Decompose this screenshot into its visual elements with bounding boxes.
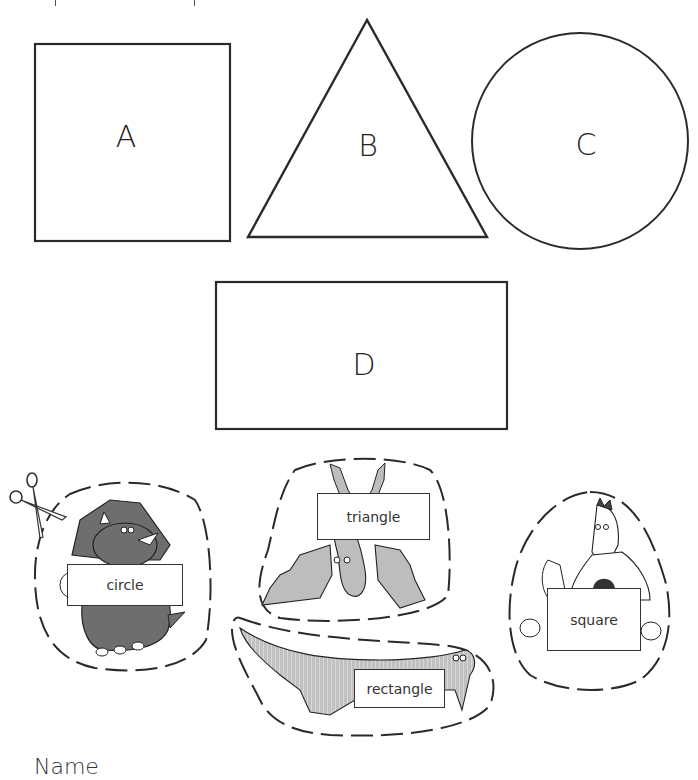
shape-label-b: B [358,128,378,163]
word-card-square[interactable]: square [547,588,641,651]
word-card-rectangle[interactable]: rectangle [354,669,445,708]
shape-label-d: D [352,347,375,382]
name-label: Name [34,754,99,779]
worksheet-drawing [0,0,698,780]
shape-label-a: A [116,119,137,154]
shape-label-c: C [576,127,597,162]
word-card-circle[interactable]: circle [67,564,183,606]
word-card-triangle[interactable]: triangle [317,493,430,540]
